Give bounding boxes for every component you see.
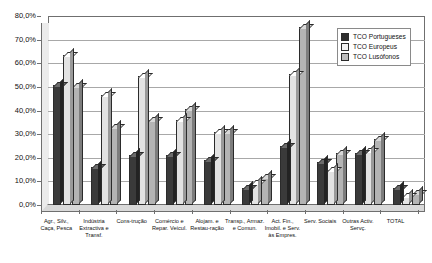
y-axis-tick-label: 40,0% — [0, 107, 36, 115]
x-axis-tick — [305, 210, 306, 214]
x-axis: Agr., Silv., Caça, PescaIndústria Extrac… — [41, 214, 425, 262]
bar — [166, 155, 174, 205]
bar-side-face — [306, 20, 310, 204]
bar-side-face — [79, 79, 83, 204]
legend-label: TCO Europeus — [353, 43, 397, 51]
bar-side-face — [230, 125, 234, 204]
x-axis-tick-label: Cons-trução — [112, 218, 152, 225]
bar-side-face — [334, 163, 338, 204]
bar-side-face — [221, 125, 225, 204]
x-axis-tick-label: Indústria Extractiva e Transf. — [74, 218, 114, 239]
x-axis-tick-label: TOTAL — [376, 218, 416, 225]
legend-swatch-icon — [341, 43, 349, 51]
chart-legend: TCO Portugueses TCO Europeus TCO Lusófon… — [337, 28, 411, 66]
x-axis-tick — [116, 210, 117, 214]
bar-side-face — [371, 144, 375, 204]
bar-side-face — [287, 139, 291, 204]
x-axis-tick — [41, 210, 42, 214]
bar-chart: 80,0%70,0%60,0%50,0%40,0%30,0%20,0%10,0%… — [0, 0, 432, 263]
bar-side-face — [155, 113, 159, 204]
y-axis-tick-label: 10,0% — [0, 177, 36, 185]
bar — [355, 153, 363, 205]
legend-item: TCO Europeus — [341, 42, 406, 52]
bar-side-face — [324, 155, 328, 204]
x-axis-tick-label: Act. Fin., Imobil. e Serv. às Empres. — [263, 218, 303, 239]
bar-side-face — [268, 170, 272, 204]
bar-side-face — [60, 78, 64, 204]
y-axis-tick-label: 80,0% — [0, 12, 36, 20]
bar — [53, 85, 61, 205]
bar-side-face — [70, 48, 74, 204]
bar — [204, 160, 212, 205]
bar-side-face — [192, 102, 196, 204]
bar — [317, 162, 325, 205]
x-axis-tick-label: Transp., Armaz. e Comun. — [225, 218, 265, 232]
legend-item: TCO Portugueses — [341, 32, 406, 42]
bar-side-face — [136, 148, 140, 204]
x-axis-tick-label: Outras Activ. Servç. — [338, 218, 378, 232]
bar — [91, 167, 99, 205]
bar-side-face — [98, 160, 102, 204]
y-axis-tick-label: 0,0% — [0, 201, 36, 209]
bar-side-face — [108, 88, 112, 204]
bar-side-face — [381, 132, 385, 204]
bar — [176, 120, 184, 205]
bar-side-face — [343, 146, 347, 204]
legend-swatch-icon — [341, 33, 349, 41]
bar-side-face — [173, 148, 177, 204]
x-axis-tick — [380, 210, 381, 214]
bar-side-face — [117, 120, 121, 204]
bar-side-face — [145, 69, 149, 204]
bar-side-face — [258, 176, 262, 204]
bar — [129, 155, 137, 205]
x-axis-tick-label: Comércio e Repar. Veícul. — [150, 218, 190, 232]
bar — [63, 55, 71, 205]
x-axis-tick-label: Serv. Sociais — [300, 218, 340, 225]
bar-side-face — [362, 146, 366, 204]
y-axis-tick-label: 70,0% — [0, 36, 36, 44]
x-axis-tick — [267, 210, 268, 214]
x-axis-tick — [192, 210, 193, 214]
x-axis-tick-label: Agr., Silv., Caça, Pesca — [36, 218, 76, 232]
x-axis-tick-label: Alojam. e Restau-ração — [187, 218, 227, 232]
x-axis-tick — [418, 210, 419, 214]
x-axis-tick — [154, 210, 155, 214]
bar-side-face — [211, 153, 215, 204]
x-axis-tick — [343, 210, 344, 214]
bar-side-face — [183, 113, 187, 204]
bar — [280, 146, 288, 205]
legend-label: TCO Portugueses — [353, 33, 406, 41]
y-axis-tick-label: 50,0% — [0, 83, 36, 91]
bar — [393, 188, 401, 205]
bar — [242, 188, 250, 205]
y-axis-tick-label: 60,0% — [0, 59, 36, 67]
x-axis-tick — [79, 210, 80, 214]
legend-label: TCO Lusófonos — [353, 53, 399, 61]
legend-item: TCO Lusófonos — [341, 52, 406, 62]
x-axis-tick — [230, 210, 231, 214]
bar-side-face — [296, 67, 300, 204]
y-axis: 80,0%70,0%60,0%50,0%40,0%30,0%20,0%10,0%… — [0, 0, 41, 263]
bar-side-face — [419, 186, 423, 204]
y-axis-tick-label: 20,0% — [0, 154, 36, 162]
legend-swatch-icon — [341, 53, 349, 61]
y-axis-tick-label: 30,0% — [0, 130, 36, 138]
